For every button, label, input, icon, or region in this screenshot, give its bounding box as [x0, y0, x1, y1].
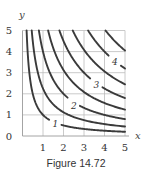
x-tick-label: 2 [60, 142, 66, 153]
tick-labels: 12345012345 [6, 25, 128, 153]
axes [23, 31, 130, 137]
contour-line-3 [102, 87, 125, 98]
x-tick-label: 5 [122, 142, 128, 153]
x-axis-label: x [135, 130, 141, 141]
contour-label-2: 2 [70, 101, 77, 111]
contour-lines [27, 31, 125, 132]
x-tick-label: 1 [40, 142, 46, 153]
figure-caption: Figure 14.72 [0, 157, 152, 169]
y-tick-label: 5 [6, 25, 12, 36]
y-tick-label: 2 [6, 88, 12, 99]
contour-plot: 12345012345 1234 x y [0, 0, 152, 178]
contour-line-4.5 [106, 31, 125, 51]
y-tick-label: 1 [6, 109, 12, 120]
x-tick-label: 3 [81, 142, 87, 153]
contour-figure: 12345012345 1234 x y Figure 14.72 [0, 0, 152, 178]
contour-line-4 [121, 66, 125, 69]
contour-label-1: 1 [52, 119, 58, 129]
x-tick-label: 4 [101, 142, 107, 153]
contour-line-1.5 [32, 31, 125, 127]
contour-label-4: 4 [111, 57, 118, 67]
contour-line-2.5 [48, 31, 125, 110]
y-tick-label: 3 [6, 67, 12, 78]
y-tick-label: 4 [6, 46, 12, 57]
contour-label-3: 3 [93, 80, 99, 90]
y-tick-label: 0 [6, 131, 12, 142]
y-axis-label: y [18, 9, 25, 20]
